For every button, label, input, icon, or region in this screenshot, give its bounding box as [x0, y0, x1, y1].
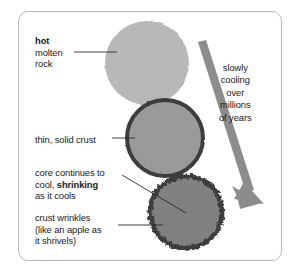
label-shrinking-word: shrinking: [57, 179, 98, 190]
label-arrow-line2: cooling: [219, 74, 252, 86]
label-core-line2a: cool,: [35, 179, 57, 190]
diagram-canvas: hot molten rock thin, solid crust core c…: [0, 0, 303, 274]
label-core-line3: as it cools: [35, 190, 105, 202]
label-wrinkle-line3: it shrivels): [35, 235, 102, 247]
label-core-shrinking: core continues to cool, shrinking as it …: [35, 167, 105, 202]
stage-molten-rock: [105, 21, 189, 105]
label-rock-word: rock: [35, 58, 63, 70]
label-core-line1: core continues to: [35, 167, 105, 179]
label-molten-rock: hot molten rock: [35, 35, 63, 70]
label-arrow-line5: of years: [219, 112, 252, 124]
label-molten-word: molten: [35, 47, 63, 59]
label-hot-word: hot: [35, 35, 49, 46]
label-cooling-over-time: slowly cooling over millions of years: [219, 62, 252, 124]
stage-thin-solid-crust: [127, 100, 203, 176]
label-arrow-line3: over: [219, 87, 252, 99]
label-arrow-line4: millions: [219, 99, 252, 111]
label-thin-solid-crust: thin, solid crust: [35, 134, 96, 146]
label-thin-solid-crust-text: thin, solid crust: [35, 134, 96, 146]
stage-wrinkled-crust: [150, 176, 222, 248]
label-wrinkle-line2: (like an apple as: [35, 224, 102, 236]
label-arrow-line1: slowly: [219, 62, 252, 74]
label-wrinkle-line1: crust wrinkles: [35, 212, 102, 224]
label-crust-wrinkles: crust wrinkles (like an apple as it shri…: [35, 212, 102, 247]
